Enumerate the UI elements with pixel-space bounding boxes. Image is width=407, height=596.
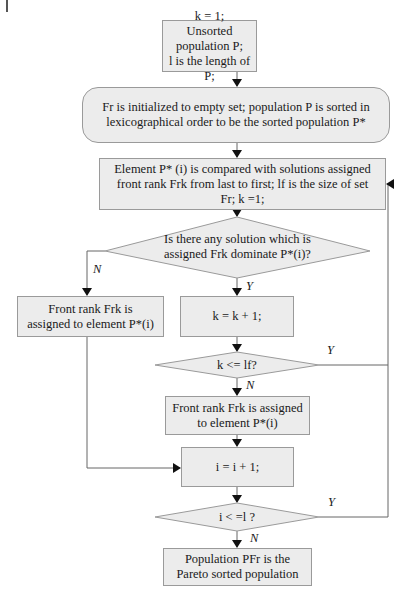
- assign-main-line-1: Front rank Frk is assigned: [172, 401, 303, 416]
- compare-line-3: Fr; k =1;: [221, 192, 265, 207]
- decision-dominate: Is there any solution which is assigned …: [140, 228, 335, 266]
- assign-left-line-2: assigned to element P*(i): [27, 317, 154, 332]
- decision-i-text: i < =l ?: [219, 510, 255, 525]
- init-line-2: lexicographical order to be the sorted p…: [106, 115, 365, 130]
- decision-dominate-line-1: Is there any solution which is: [164, 232, 311, 247]
- increment-i-box: i = i + 1;: [181, 447, 294, 487]
- compare-box: Element P* (i) is compared with solution…: [99, 158, 386, 210]
- compare-line-2: front rank Frk from last to first; lf is…: [117, 177, 368, 192]
- init-box: Fr is initialized to empty set; populati…: [82, 87, 390, 143]
- compare-line-1: Element P* (i) is compared with solution…: [114, 162, 371, 177]
- assign-left-line-1: Front rank Frk is: [48, 302, 132, 317]
- edge-label-n-i: N: [250, 531, 258, 546]
- end-line-1: Population PFr is the: [185, 552, 290, 567]
- edge-label-y-dominate: Y: [246, 279, 253, 294]
- increment-k-text: k = k + 1;: [213, 309, 262, 324]
- start-line-3: l is the length of P;: [167, 54, 252, 84]
- start-line-2: Unsorted population P;: [167, 24, 252, 54]
- end-line-2: Pareto sorted population: [176, 567, 298, 582]
- decision-k: k <= lf?: [187, 357, 287, 373]
- assign-left-box: Front rank Frk is assigned to element P*…: [17, 296, 164, 337]
- increment-i-text: i = i + 1;: [216, 460, 259, 475]
- edge-label-n-k: N: [246, 378, 254, 393]
- increment-k-box: k = k + 1;: [180, 296, 294, 337]
- decision-i: i < =l ?: [187, 509, 287, 525]
- decision-k-text: k <= lf?: [217, 358, 257, 373]
- assign-main-line-2: to element P*(i): [197, 416, 278, 431]
- start-line-1: k = 1;: [195, 9, 224, 24]
- start-box: k = 1; Unsorted population P; l is the l…: [162, 20, 257, 72]
- decision-dominate-line-2: assigned Frk dominate P*(i)?: [164, 247, 311, 262]
- assign-main-box: Front rank Frk is assigned to element P*…: [165, 396, 310, 435]
- edge-label-y-i: Y: [328, 495, 335, 510]
- init-line-1: Fr is initialized to empty set; populati…: [102, 100, 370, 115]
- end-box: Population PFr is the Pareto sorted popu…: [163, 548, 312, 586]
- edge-label-n-dominate: N: [93, 262, 101, 277]
- edge-label-y-k: Y: [327, 343, 334, 358]
